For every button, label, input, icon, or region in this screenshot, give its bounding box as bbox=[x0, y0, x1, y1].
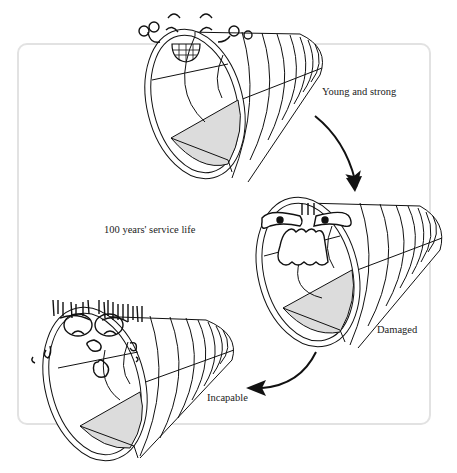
tunnel-incapable bbox=[28, 296, 234, 472]
stage-label-damaged: Damaged bbox=[377, 324, 417, 335]
frame-label-service-life: 100 years' service life bbox=[104, 224, 195, 235]
tunnel-young bbox=[130, 19, 322, 190]
stage-label-young: Young and strong bbox=[322, 86, 396, 97]
arrow-young-to-damaged bbox=[315, 116, 355, 180]
arrow-damaged-to-incapable bbox=[262, 352, 316, 388]
stage-label-incapable: Incapable bbox=[207, 392, 248, 403]
